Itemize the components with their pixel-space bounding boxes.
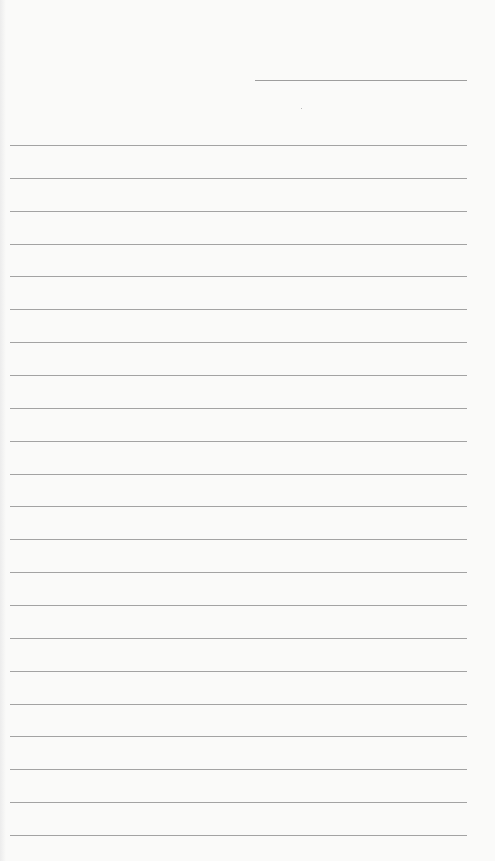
- ruled-line: [10, 638, 467, 639]
- notepaper-page: [0, 0, 495, 861]
- ruled-line: [10, 802, 467, 803]
- page-edge-shadow: [0, 0, 6, 861]
- ruled-line: [10, 408, 467, 409]
- ruled-line: [10, 671, 467, 672]
- ruled-line: [10, 244, 467, 245]
- ruled-line: [10, 342, 467, 343]
- ruled-line: [10, 145, 467, 146]
- ruled-line: [10, 769, 467, 770]
- ruled-line: [10, 178, 467, 179]
- ruled-line: [10, 572, 467, 573]
- ruled-line: [10, 474, 467, 475]
- date-field-line: [255, 80, 467, 81]
- ruled-line: [10, 736, 467, 737]
- ruled-line: [10, 539, 467, 540]
- ruled-line: [10, 211, 467, 212]
- ruled-line: [10, 835, 467, 836]
- ruled-line: [10, 605, 467, 606]
- ruled-line: [10, 506, 467, 507]
- ruled-line: [10, 441, 467, 442]
- ruled-line: [10, 704, 467, 705]
- ruled-line: [10, 375, 467, 376]
- ruled-line: [10, 276, 467, 277]
- paper-speck: [301, 108, 302, 109]
- ruled-line: [10, 309, 467, 310]
